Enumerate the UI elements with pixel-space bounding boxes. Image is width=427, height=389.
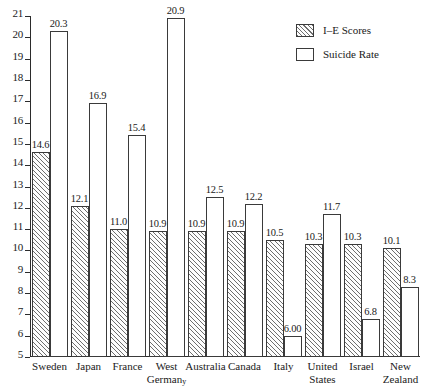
y-axis-tick: 9 [0,272,30,273]
y-axis-tick-label: 16 [12,115,23,126]
y-axis-tick: 18 [0,80,30,81]
y-axis-tick-mark [25,357,30,358]
x-axis-label-line2: Zealand [361,373,427,386]
bar-value-label: 8.3 [395,274,425,285]
x-axis-label-line2: Germany [127,373,207,389]
bar-ie-score [149,231,167,357]
bar-suicide-rate [401,287,419,357]
bar-ie-score [110,229,128,357]
y-axis-tick: 11 [0,229,30,230]
y-axis-tick-label: 17 [12,93,23,104]
y-axis-tick-label: 11 [13,221,23,232]
x-axis-label-subscript: y [182,377,186,386]
x-axis-label-line1: New [390,360,411,372]
y-axis-tick: 16 [0,123,30,124]
legend-swatch-hatched [296,24,314,37]
legend-swatch-outline [296,48,314,61]
y-axis-tick: 6 [0,336,30,337]
chart-legend: I–E Scores Suicide Rate [296,20,421,68]
y-axis-tick-label: 12 [12,200,23,211]
bar-ie-score [383,248,401,357]
bar-value-label: 11.7 [317,201,347,212]
y-axis-tick: 19 [0,59,30,60]
y-axis-tick-label: 13 [12,179,23,190]
legend-label-suicide-rate: Suicide Rate [323,48,379,60]
bar-ie-score [188,231,206,357]
y-axis-tick-label: 21 [12,8,23,19]
y-axis-tick: 7 [0,314,30,315]
legend-label-ie-scores: I–E Scores [323,24,371,36]
bar-suicide-rate [167,18,185,357]
bar-value-label: 15.4 [122,122,152,133]
bar-value-label: 12.5 [200,184,230,195]
bar-chart: 21201918171615141312111098765 14.620.312… [0,0,427,389]
bar-ie-score [305,244,323,357]
y-axis-tick: 5 [0,357,30,358]
y-axis-tick-label: 10 [12,242,23,253]
bar-value-label: 10.1 [377,235,407,246]
y-axis-tick-label: 20 [12,29,23,40]
bar-ie-score [266,240,284,357]
y-axis-tick: 13 [0,187,30,188]
y-axis-tick-label: 5 [18,349,23,360]
bar-suicide-rate [89,103,107,357]
bar-value-label: 20.9 [161,5,191,16]
bar-ie-score [71,206,89,357]
y-axis-tick-label: 9 [18,264,23,275]
bar-ie-score [227,231,245,357]
y-axis-tick: 17 [0,101,30,102]
bar-suicide-rate [128,135,146,357]
y-axis-tick: 20 [0,37,30,38]
y-axis-tick: 14 [0,165,30,166]
bar-ie-score [344,244,362,357]
y-axis-tick-label: 7 [18,306,23,317]
y-axis-tick-label: 6 [18,328,23,339]
bar-value-label: 6.00 [278,323,308,334]
y-axis-tick-label: 19 [12,51,23,62]
bar-suicide-rate [362,319,380,357]
bar-value-label: 6.8 [356,306,386,317]
y-axis-tick-label: 15 [12,136,23,147]
x-axis-label-line2: States [283,373,363,386]
legend-item-ie-scores: I–E Scores [296,20,421,40]
y-axis-tick: 10 [0,250,30,251]
bar-value-label: 10.5 [260,227,290,238]
x-axis-label-10: NewZealand [361,360,427,385]
bar-value-label: 10.3 [338,231,368,242]
bar-value-label: 20.3 [44,18,74,29]
bar-value-label: 12.2 [239,191,269,202]
legend-item-suicide-rate: Suicide Rate [296,44,421,64]
y-axis-tick: 21 [0,16,30,17]
bar-ie-score [32,152,50,357]
y-axis-tick-label: 18 [12,72,23,83]
y-axis-tick-label: 14 [12,157,23,168]
y-axis-tick: 8 [0,293,30,294]
y-axis-tick-label: 8 [18,285,23,296]
bar-suicide-rate [284,336,302,357]
y-axis-tick: 12 [0,208,30,209]
bar-value-label: 16.9 [83,90,113,101]
